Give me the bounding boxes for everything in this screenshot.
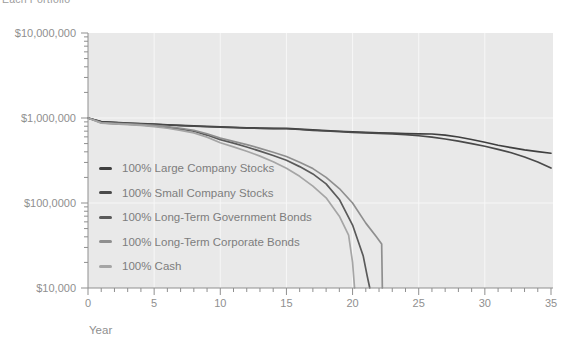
legend-swatch [99, 265, 112, 268]
x-axis-label: 35 [536, 297, 566, 309]
legend-swatch [99, 216, 112, 219]
y-axis-label: $10,000,000 [4, 27, 76, 39]
legend-swatch [99, 191, 112, 194]
legend-label: 100% Long-Term Corporate Bonds [122, 236, 300, 248]
legend-swatch [99, 167, 112, 170]
x-axis-label: 10 [205, 297, 235, 309]
legend-item: 100% Small Company Stocks [99, 187, 312, 200]
y-axis-label: $100,0000 [4, 197, 76, 209]
y-axis-label: $1,000,000 [4, 112, 76, 124]
legend-label: 100% Long-Term Government Bonds [122, 211, 312, 223]
legend-item: 100% Cash [99, 260, 312, 273]
legend-item: 100% Long-Term Corporate Bonds [99, 236, 312, 249]
legend-swatch [99, 240, 112, 243]
x-axis-label: 15 [271, 297, 301, 309]
legend-label: 100% Large Company Stocks [122, 162, 274, 174]
legend-label: 100% Small Company Stocks [122, 187, 273, 199]
x-axis-label: 25 [404, 297, 434, 309]
legend: 100% Large Company Stocks100% Small Comp… [99, 162, 312, 273]
x-axis-label: 20 [338, 297, 368, 309]
legend-item: 100% Large Company Stocks [99, 162, 312, 175]
chart-container: Each Portfolio $10,000,000$1,000,000$100… [0, 0, 576, 354]
x-axis-label: 5 [139, 297, 169, 309]
y-axis-label: $10,000 [4, 282, 76, 294]
x-axis-title: Year [89, 324, 112, 336]
x-axis-label: 0 [73, 297, 103, 309]
legend-label: 100% Cash [122, 260, 181, 272]
legend-item: 100% Long-Term Government Bonds [99, 211, 312, 224]
x-axis-label: 30 [470, 297, 500, 309]
